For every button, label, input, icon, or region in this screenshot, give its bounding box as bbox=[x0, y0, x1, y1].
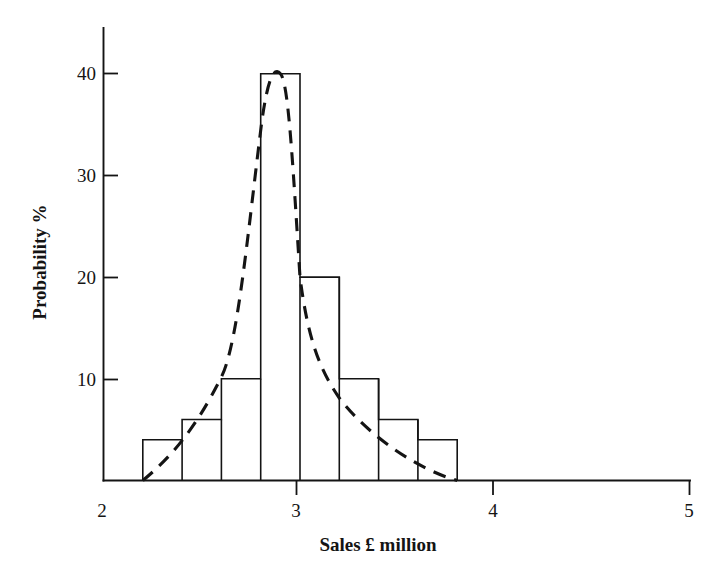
y-tick-label-20: 20 bbox=[77, 267, 96, 288]
x-tick-label-2: 2 bbox=[97, 500, 107, 521]
y-tick-label-10: 10 bbox=[77, 369, 96, 390]
y-tick-label-30: 30 bbox=[77, 165, 96, 186]
y-axis-title: Probability % bbox=[29, 204, 50, 319]
x-tick-label-3: 3 bbox=[291, 500, 301, 521]
chart-canvas: 40 30 20 10 2 3 4 5 bbox=[0, 0, 728, 584]
chart-background bbox=[0, 0, 728, 584]
x-tick-label-4: 4 bbox=[488, 500, 498, 521]
x-tick-label-5: 5 bbox=[684, 500, 694, 521]
y-tick-label-40: 40 bbox=[77, 63, 96, 84]
x-axis-title: Sales £ million bbox=[319, 534, 437, 555]
